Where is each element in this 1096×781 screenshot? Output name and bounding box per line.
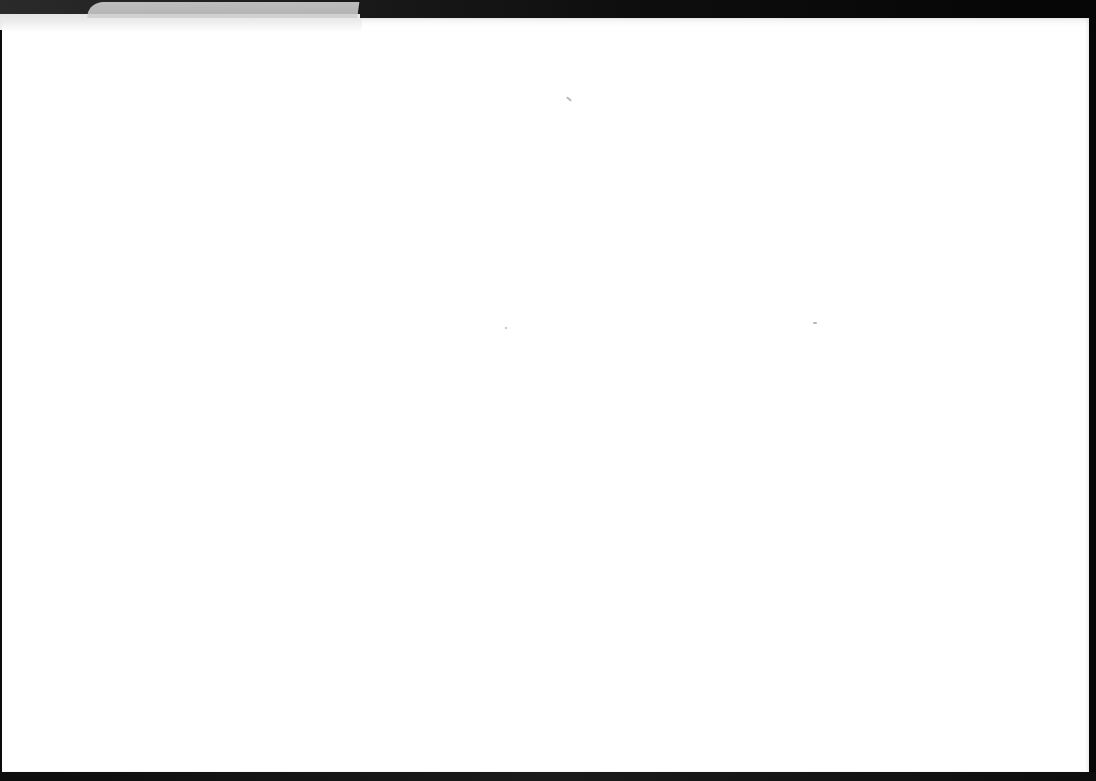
dust-speck [505, 327, 507, 329]
dark-background-right [1089, 18, 1096, 781]
dark-background-bottom [0, 772, 1096, 781]
sheet-top-shading [2, 18, 362, 32]
photo-scene [0, 0, 1096, 781]
dust-speck [813, 322, 817, 324]
blank-paper-sheet [2, 18, 1089, 772]
